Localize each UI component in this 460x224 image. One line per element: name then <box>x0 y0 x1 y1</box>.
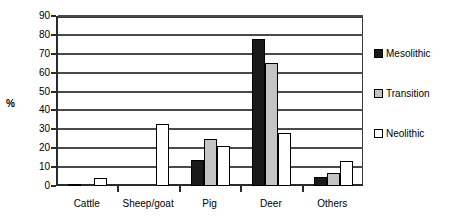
y-tick-label: 40 <box>26 105 50 115</box>
y-tick-label: 0 <box>26 181 50 191</box>
bar-mesolithic <box>191 160 204 186</box>
y-tick-label: 50 <box>26 87 50 97</box>
x-tick-label: Pig <box>179 198 240 209</box>
y-axis-title: % <box>6 98 15 109</box>
x-tick-mark <box>117 186 119 192</box>
bar-group-cattle <box>68 16 107 186</box>
y-tick-label: 60 <box>26 68 50 78</box>
legend-swatch-icon <box>374 49 383 58</box>
bar-neolithic <box>217 146 230 186</box>
bars-layer <box>56 16 363 186</box>
legend-item-label: Transition <box>386 88 430 99</box>
bar-group-deer <box>252 16 291 186</box>
x-tick-label: Deer <box>240 198 301 209</box>
x-tick-label: Sheep/goat <box>117 198 178 209</box>
bar-group-others <box>314 16 353 186</box>
y-tick-label: 30 <box>26 124 50 134</box>
x-tick-mark <box>179 186 181 192</box>
legend-item-transition: Transition <box>374 84 430 96</box>
bar-mesolithic <box>252 39 265 186</box>
legend-item-label: Neolithic <box>386 128 424 139</box>
bar-group-sheep-goat <box>130 16 169 186</box>
bar-transition <box>204 139 217 186</box>
x-tick-mark <box>240 186 242 192</box>
legend-item-neolithic: Neolithic <box>374 124 430 136</box>
y-tick-label: 70 <box>26 49 50 59</box>
bar-mesolithic <box>314 177 327 186</box>
bar-transition <box>327 173 340 186</box>
legend-item-mesolithic: Mesolithic <box>374 44 430 56</box>
bar-group-pig <box>191 16 230 186</box>
bar-chart: % 0102030405060708090 CattleSheep/goatPi… <box>0 0 460 224</box>
chart-legend: Mesolithic Transition Neolithic <box>374 44 430 164</box>
bar-neolithic <box>340 161 353 186</box>
y-tick-label: 20 <box>26 143 50 153</box>
x-tick-label: Others <box>302 198 363 209</box>
x-tick-mark <box>302 186 304 192</box>
x-tick-label: Cattle <box>56 198 117 209</box>
bar-transition <box>265 63 278 186</box>
legend-item-label: Mesolithic <box>386 48 430 59</box>
legend-swatch-icon <box>374 89 383 98</box>
bar-neolithic <box>156 124 169 186</box>
y-tick-label: 80 <box>26 30 50 40</box>
bar-mesolithic <box>68 184 81 186</box>
bar-neolithic <box>94 178 107 186</box>
y-tick-label: 10 <box>26 162 50 172</box>
bar-neolithic <box>278 133 291 186</box>
legend-swatch-icon <box>374 129 383 138</box>
y-tick-label: 90 <box>26 11 50 21</box>
